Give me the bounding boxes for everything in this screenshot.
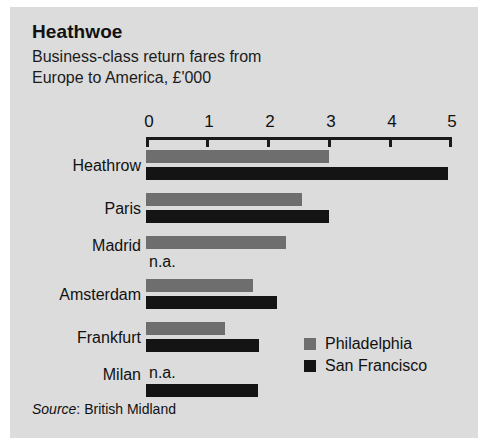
x-axis-tick-4	[389, 137, 392, 147]
chart-plot-area: 0 1 2 3 4 5 Heathrow Paris Madrid	[10, 7, 478, 438]
source-note: Source: British Midland	[32, 401, 176, 417]
bar-heathrow-san-francisco	[146, 167, 448, 180]
bar-milan-san-francisco	[146, 384, 258, 397]
category-label-milan: Milan	[0, 366, 141, 384]
legend-label-philadelphia: Philadelphia	[325, 335, 412, 353]
legend-swatch-philadelphia-icon	[304, 338, 316, 350]
x-axis-tick-label-1: 1	[194, 112, 224, 132]
chart-legend: Philadelphia San Francisco	[304, 333, 427, 377]
source-value: British Midland	[84, 401, 176, 417]
legend-item-philadelphia: Philadelphia	[304, 333, 427, 355]
bar-heathrow-philadelphia	[146, 150, 329, 163]
x-axis: 0 1 2 3 4 5	[146, 137, 452, 147]
x-axis-tick-2	[267, 137, 270, 147]
x-axis-tick-label-3: 3	[316, 112, 346, 132]
x-axis-tick-label-0: 0	[134, 112, 164, 132]
x-axis-line	[146, 137, 452, 140]
x-axis-tick-label-2: 2	[255, 112, 285, 132]
x-axis-tick-5	[449, 137, 452, 147]
bar-group-amsterdam: Amsterdam	[10, 279, 478, 315]
bar-group-heathrow: Heathrow	[10, 150, 478, 186]
source-label: Source	[32, 401, 76, 417]
bar-madrid-philadelphia	[146, 236, 286, 249]
x-axis-tick-label-4: 4	[377, 112, 407, 132]
category-label-paris: Paris	[0, 200, 141, 218]
na-label-madrid-san-francisco: n.a.	[149, 254, 176, 270]
bar-paris-san-francisco	[146, 210, 329, 223]
na-label-milan-philadelphia: n.a.	[149, 365, 176, 381]
x-axis-tick-3	[328, 137, 331, 147]
bar-group-paris: Paris	[10, 193, 478, 229]
category-label-frankfurt: Frankfurt	[0, 329, 141, 347]
x-axis-tick-1	[206, 137, 209, 147]
category-label-amsterdam: Amsterdam	[0, 286, 141, 304]
x-axis-tick-0	[146, 137, 149, 147]
bar-frankfurt-philadelphia	[146, 322, 225, 335]
legend-label-san-francisco: San Francisco	[325, 357, 427, 375]
bar-amsterdam-philadelphia	[146, 279, 253, 292]
bar-frankfurt-san-francisco	[146, 339, 259, 352]
bar-group-madrid: Madrid n.a.	[10, 236, 478, 272]
category-label-madrid: Madrid	[0, 237, 141, 255]
legend-item-san-francisco: San Francisco	[304, 355, 427, 377]
source-separator: :	[76, 401, 84, 417]
bar-amsterdam-san-francisco	[146, 296, 277, 309]
legend-swatch-san-francisco-icon	[304, 360, 316, 372]
chart-panel: Heathwoe Business-class return fares fro…	[10, 7, 478, 438]
bar-paris-philadelphia	[146, 193, 302, 206]
x-axis-tick-label-5: 5	[437, 112, 467, 132]
category-label-heathrow: Heathrow	[0, 157, 141, 175]
